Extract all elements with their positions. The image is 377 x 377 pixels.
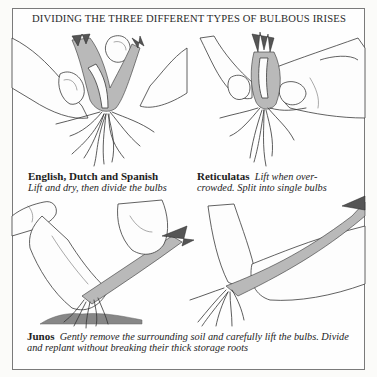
panel-description-line1: Lift when over- [255,171,318,182]
panel-heading: English, Dutch and Spanish [28,170,158,182]
bulb-cluster-hands-illustration [12,28,187,168]
panel-description-line2: and replant without breaking their thick… [27,342,248,353]
panel-description: Lift and dry, then divide the bulbs [28,182,167,193]
panel-heading: Junos [27,330,55,342]
panel-description-line1: Gently remove the surrounding soil and c… [60,331,349,342]
page-title: DIVIDING THE THREE DIFFERENT TYPES OF BU… [32,13,346,24]
single-bulb-hand-illustration [190,28,365,168]
juno-trowel-and-hands-illustration [12,196,365,328]
panel-heading: Reticulatas [197,170,250,182]
panel-description-line2: crowded. Split into single bulbs [197,182,327,193]
